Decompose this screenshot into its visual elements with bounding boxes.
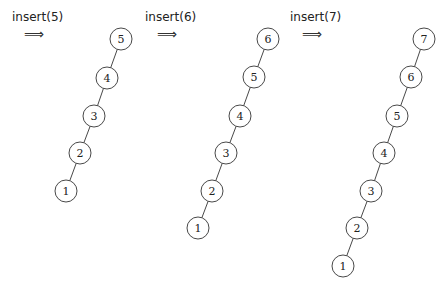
node-key: 6 [265, 33, 272, 46]
tree-node: 2 [201, 180, 223, 202]
tree-2: 654321 [187, 28, 279, 239]
tree-edge [375, 163, 381, 180]
tree-node: 3 [360, 180, 382, 202]
node-key: 6 [408, 71, 415, 84]
node-key: 5 [394, 110, 401, 123]
tree-edge [388, 126, 394, 142]
tree-edge [70, 163, 76, 180]
tree-edge [244, 87, 251, 105]
node-key: 3 [223, 147, 230, 160]
tree-1: 54321 [55, 28, 132, 202]
tree-node: 3 [215, 142, 237, 164]
node-key: 3 [368, 185, 375, 198]
node-key: 5 [118, 33, 125, 46]
node-key: 4 [381, 147, 388, 160]
tree-node: 6 [257, 28, 279, 50]
tree-node: 4 [229, 105, 251, 127]
node-key: 3 [91, 110, 98, 123]
implies-arrow-icon: ⟹ [302, 27, 322, 41]
tree-edge [216, 163, 222, 180]
tree-edge [111, 49, 118, 67]
node-key: 1 [340, 260, 347, 273]
tree-node: 1 [332, 255, 354, 277]
tree-edge [258, 49, 264, 66]
node-key: 4 [104, 72, 111, 85]
tree-node: 1 [55, 180, 77, 202]
tree-diagram-canvas: 543216543217654321 [0, 0, 448, 289]
tree-edge [202, 201, 208, 217]
tree-edge [347, 238, 353, 255]
tree-node: 5 [110, 28, 132, 50]
node-key: 4 [237, 110, 244, 123]
tree-node: 1 [187, 217, 209, 239]
tree-node: 2 [346, 217, 368, 239]
node-key: 2 [354, 222, 361, 235]
tree-node: 3 [83, 105, 105, 127]
node-key: 2 [209, 185, 216, 198]
implies-arrow-icon: ⟹ [157, 27, 177, 41]
tree-edge [230, 126, 236, 142]
tree-3: 7654321 [332, 28, 435, 277]
node-key: 2 [77, 147, 84, 160]
insert-label: insert(6) [145, 10, 196, 24]
insert-label: insert(5) [12, 10, 63, 24]
node-key: 5 [251, 71, 258, 84]
tree-node: 4 [373, 142, 395, 164]
implies-arrow-icon: ⟹ [24, 27, 44, 41]
tree-edge [84, 126, 90, 142]
tree-edge [415, 49, 421, 66]
tree-node: 5 [243, 66, 265, 88]
node-key: 1 [195, 222, 202, 235]
tree-edge [361, 201, 367, 217]
node-key: 1 [63, 185, 70, 198]
tree-edge [401, 87, 408, 105]
tree-node: 7 [413, 28, 435, 50]
tree-node: 6 [400, 66, 422, 88]
insert-label: insert(7) [290, 10, 341, 24]
node-key: 7 [421, 33, 428, 46]
tree-node: 4 [96, 67, 118, 89]
tree-node: 5 [386, 105, 408, 127]
tree-node: 2 [69, 142, 91, 164]
tree-edge [98, 88, 104, 105]
